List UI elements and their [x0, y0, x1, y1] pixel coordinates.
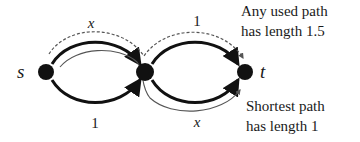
edge-s-m-bottom: [52, 80, 140, 103]
node-t-label: t: [260, 61, 266, 82]
used-path-note-line1: Any used path: [241, 3, 328, 19]
shortest-path-note-line1: Shortest path: [246, 98, 325, 114]
edge-m-t-top: [152, 42, 238, 64]
network-diagram: s t x 1 1 x Any used path has length 1.5…: [0, 0, 360, 142]
edge-label-m-t-top: 1: [193, 13, 201, 29]
shortest-path-note-line2: has length 1: [246, 118, 319, 134]
node-t: [237, 64, 253, 80]
used-path-note-line2: has length 1.5: [241, 23, 325, 39]
node-middle: [136, 63, 154, 81]
edge-label-s-m-top: x: [87, 15, 95, 31]
node-s-label: s: [17, 61, 24, 82]
node-s: [38, 64, 54, 80]
edge-m-t-bottom: [152, 80, 238, 103]
edge-label-s-m-bottom: 1: [91, 115, 99, 131]
edge-label-m-t-bottom: x: [193, 114, 201, 130]
edge-s-m-top: [52, 42, 140, 64]
